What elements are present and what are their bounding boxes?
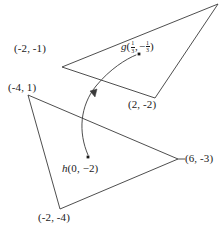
label-vertex-upper-bottom: (2, -2) xyxy=(128,99,156,110)
label-point-g-y-value: − 1 3 xyxy=(139,40,150,53)
label-vertex-upper-left: (-2, -1) xyxy=(14,43,46,54)
label-point-g-y-fraction: 1 3 xyxy=(146,40,150,53)
label-point-h: h(0, −2) xyxy=(62,163,98,174)
point-h-marker xyxy=(87,156,90,159)
label-point-g-x-fraction: 1 3 xyxy=(131,40,135,53)
label-vertex-lower-topleft: (-4, 1) xyxy=(8,82,36,93)
label-point-g-comma: , xyxy=(135,40,138,52)
label-vertex-lower-right: (6, -3) xyxy=(185,153,213,164)
fraction-denominator: 3 xyxy=(131,47,135,54)
lower-triangle xyxy=(28,95,178,209)
label-vertex-lower-bottom: (-2, -4) xyxy=(38,212,70,223)
label-point-g-close: ) xyxy=(150,40,154,52)
figure-canvas xyxy=(0,0,224,229)
label-point-h-coords: (0, −2) xyxy=(68,162,99,174)
label-point-g-minus-sign: − xyxy=(139,41,145,52)
label-point-g: g( 1 3 , − 1 3 ) xyxy=(121,40,154,54)
geometry-figure: (-2, -1) (2, -2) (-4, 1) (6, -3) (-2, -4… xyxy=(0,0,224,229)
fraction-denominator: 3 xyxy=(146,46,150,53)
